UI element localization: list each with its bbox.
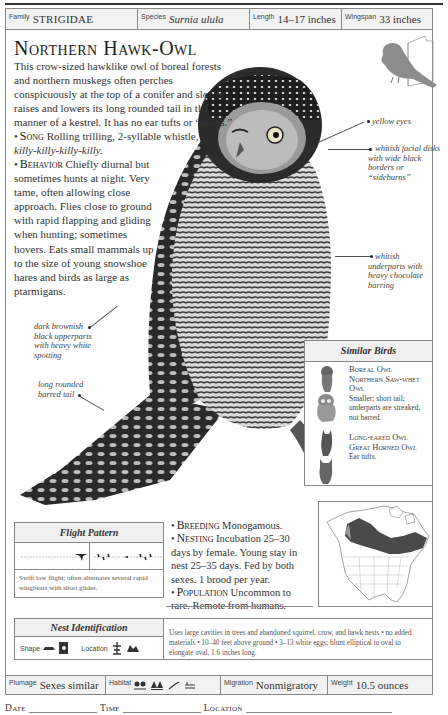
- breeding-text: Monogamous.: [222, 520, 282, 531]
- saw-whet-owl-icon: [313, 393, 339, 423]
- bird-perch-icon: [168, 681, 180, 690]
- similar-birds-panel: Similar Birds Boreal Owl Northern Saw-wh…: [304, 340, 433, 486]
- divider: [166, 606, 313, 607]
- north-america-map: [319, 502, 433, 607]
- breeding-item: •Breeding Monogamous.: [171, 519, 311, 532]
- tree-location-icon: [111, 641, 123, 655]
- song-section: •Song Rolling trilling, 2-syllable whist…: [14, 129, 214, 157]
- length-cell: Length 14–17 inches: [250, 9, 342, 29]
- nesting-heading: Nesting: [177, 532, 214, 544]
- location-label: Location: [204, 703, 243, 713]
- similar-bird-desc: Smaller; short tail; underparts are stre…: [349, 394, 431, 423]
- length-label: Length: [253, 13, 274, 20]
- family-label: Family: [9, 13, 30, 20]
- marsh-icon: [185, 681, 195, 690]
- sighting-log: Date Time Location: [5, 703, 443, 713]
- date-label: Date: [5, 703, 26, 713]
- range-map[interactable]: [318, 501, 433, 607]
- nest-id-heading: Nest Identification: [15, 619, 163, 637]
- behavior-text: Chiefly diurnal but sometimes hunts at n…: [14, 158, 154, 297]
- behavior-heading: Behavior: [20, 157, 63, 171]
- page-title: Northern Hawk-Owl: [14, 37, 197, 60]
- family-value: STRIGIDAE: [33, 13, 94, 25]
- plumage-cell: Plumage Sexes similar: [6, 676, 106, 694]
- forest-edge-icon: [134, 681, 146, 690]
- cliff-location-icon: [126, 643, 140, 653]
- flight-diagrams: [15, 543, 163, 570]
- habitat-icons: [134, 681, 195, 690]
- behavior-section: •Behavior Chiefly diurnal but sometimes …: [14, 157, 159, 298]
- species-info-bar: Family STRIGIDAE Species Surnia ulula Le…: [5, 8, 433, 30]
- top-rule: [5, 3, 443, 5]
- breeding-heading: Breeding: [177, 519, 220, 531]
- long-eared-owl-icon: [319, 429, 335, 457]
- cavity-nest-icon: [58, 641, 70, 655]
- time-field[interactable]: [123, 705, 201, 713]
- bullet: •: [14, 130, 18, 142]
- annotation-yellow-eyes: yellow eyes: [372, 117, 411, 127]
- platform-nest-icon: [43, 644, 55, 652]
- wingspan-value: 33 inches: [379, 13, 421, 25]
- similar-bird-name: Great Horned Owl: [349, 443, 431, 453]
- flight-diagram-glide: [15, 543, 90, 569]
- similar-bird-group: Long-eared Owl Great Horned Owl Ear tuft…: [349, 433, 431, 462]
- song-heading: Song: [20, 129, 44, 143]
- similar-bird-group: Boreal Owl Northern Saw-whet Owl Smaller…: [349, 365, 431, 422]
- nest-description: Uses large cavities in trees and abandon…: [164, 619, 432, 659]
- flight-pattern-heading: Flight Pattern: [15, 523, 163, 543]
- nest-id-left: Nest Identification Shape Location: [15, 619, 164, 659]
- weight-label: Weight: [331, 679, 353, 686]
- wingspan-cell: Wingspan 33 inches: [342, 9, 432, 29]
- reproduction-section: •Breeding Monogamous. •Nesting Incubatio…: [171, 519, 311, 613]
- nest-icons: Shape Location: [15, 637, 163, 659]
- migration-value: Nonmigratory: [256, 679, 318, 691]
- conifer-forest-icon: [151, 681, 163, 690]
- bookmark-bird-icon[interactable]: [375, 33, 443, 99]
- annotation-underparts: whitish underparts with heavy chocolate …: [368, 252, 438, 290]
- species-description: This crow-sized hawklike owl of boreal f…: [14, 59, 236, 129]
- wingspan-label: Wingspan: [345, 13, 376, 20]
- annotation-upperparts: dark brownish black upperparts with heav…: [34, 322, 94, 360]
- migration-label: Migration: [224, 679, 253, 686]
- species-cell: Species Surnia ulula: [138, 9, 250, 29]
- nesting-item: •Nesting Incubation 25–30 days by female…: [171, 532, 311, 586]
- species-label: Species: [141, 13, 166, 20]
- population-item: •Population Uncommon to rare. Remote fro…: [171, 586, 311, 613]
- weight-cell: Weight 10.5 ounces: [328, 676, 432, 694]
- attributes-bar: Plumage Sexes similar Habitat Migration …: [5, 675, 433, 695]
- plumage-label: Plumage: [9, 679, 37, 686]
- date-field[interactable]: [29, 705, 97, 713]
- flap-flight-icon: [90, 543, 164, 570]
- glide-flight-icon: [15, 543, 89, 570]
- song-text: Rolling trilling, 2-syllable whistle,: [47, 130, 199, 142]
- annotation-line: [328, 149, 370, 150]
- similar-bird-name: Northern Saw-whet Owl: [349, 375, 431, 394]
- great-horned-owl-icon: [317, 457, 335, 485]
- boreal-owl-icon: [319, 365, 335, 393]
- nest-identification-panel: Nest Identification Shape Location Uses …: [14, 618, 433, 660]
- shape-label: Shape: [20, 645, 40, 652]
- species-value: Surnia ulula: [169, 13, 224, 25]
- plumage-value: Sexes similar: [40, 679, 99, 691]
- annotation-line: [335, 256, 370, 257]
- similar-birds-heading: Similar Birds: [305, 341, 432, 362]
- annotation-facial-disks: whitish facial disks with wide black bor…: [368, 144, 444, 182]
- bullet: •: [14, 158, 18, 170]
- migration-cell: Migration Nonmigratory: [221, 676, 328, 694]
- flight-pattern-panel: Flight Pattern Swift low flight; often a…: [14, 522, 164, 598]
- similar-bird-desc: Ear tufts.: [349, 452, 431, 462]
- population-heading: Population: [177, 586, 228, 598]
- habitat-label: Habitat: [109, 679, 131, 686]
- flight-description: Swift low flight; often alternates sever…: [15, 570, 163, 597]
- family-cell: Family STRIGIDAE: [6, 9, 138, 29]
- weight-value: 10.5 ounces: [356, 679, 409, 691]
- annotation-dot: [367, 120, 370, 123]
- habitat-cell: Habitat: [106, 676, 221, 694]
- time-label: Time: [100, 703, 120, 713]
- location-label: Location: [81, 645, 107, 652]
- location-field[interactable]: [246, 705, 392, 713]
- flight-diagram-flap: [90, 543, 164, 569]
- length-value: 14–17 inches: [277, 13, 335, 25]
- song-call: killy-killy-killy-killy.: [14, 144, 103, 156]
